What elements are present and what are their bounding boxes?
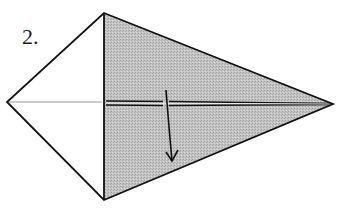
origami-diagram: [0, 0, 352, 215]
right-shaded-face: [104, 13, 333, 200]
step-number-label: 2.: [22, 26, 39, 48]
